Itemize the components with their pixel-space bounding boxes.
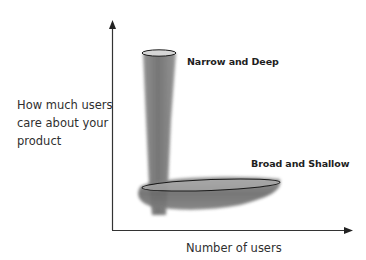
broad-shallow-annotation: Broad and Shallow <box>251 158 349 169</box>
user-care-vs-count-diagram: How much users care about your product N… <box>0 0 366 260</box>
y-axis-label-line: How much users <box>17 96 117 114</box>
x-axis <box>112 227 353 234</box>
y-axis-label-line: care about your <box>17 114 117 132</box>
x-axis-arrow-icon <box>344 227 353 234</box>
y-axis-label-line: product <box>17 132 117 150</box>
x-axis-label: Number of users <box>186 241 282 255</box>
y-axis-label: How much users care about your product <box>17 96 117 150</box>
broad-shallow-blob <box>138 177 280 210</box>
y-axis-arrow-icon <box>109 20 116 29</box>
narrow-deep-annotation: Narrow and Deep <box>187 56 279 67</box>
